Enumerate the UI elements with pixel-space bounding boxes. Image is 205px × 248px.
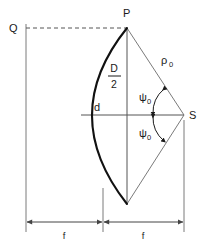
parabolic-reflector-diagram: Q P S ρ 0 D 2 d ψ 0 ψ 0 f f: [0, 0, 205, 248]
label-diameter-numerator: D: [110, 62, 118, 74]
label-focal-left: f: [63, 230, 66, 241]
label-psi0-lower: ψ 0: [139, 127, 151, 142]
label-psi-symbol-lower: ψ: [139, 127, 147, 139]
label-psi-subscript-upper: 0: [147, 97, 151, 106]
label-focal-right: f: [142, 230, 145, 241]
parabola-reflector-curve: [92, 28, 127, 204]
label-s-point: S: [189, 109, 196, 121]
angle-arc-psi0-upper: [153, 89, 164, 114]
label-aperture-half-diameter: D 2: [108, 62, 121, 90]
label-rho0: ρ 0: [161, 54, 173, 69]
label-psi-subscript-lower: 0: [147, 133, 151, 142]
angle-arc-psi0-lower: [153, 116, 164, 141]
label-psi0-upper: ψ 0: [139, 91, 151, 106]
label-diameter-denominator: 2: [111, 78, 117, 90]
figure-canvas: Q P S ρ 0 D 2 d ψ 0 ψ 0 f f: [0, 0, 205, 248]
label-p-point: P: [123, 7, 130, 19]
ray-lower-rho0: [127, 115, 184, 204]
label-rho-symbol: ρ: [161, 54, 167, 66]
label-rho-subscript: 0: [169, 60, 173, 69]
label-psi-symbol-upper: ψ: [139, 91, 147, 103]
ray-upper-rho0: [127, 28, 184, 115]
label-depth-d: d: [94, 101, 100, 113]
label-q-point: Q: [9, 22, 18, 34]
